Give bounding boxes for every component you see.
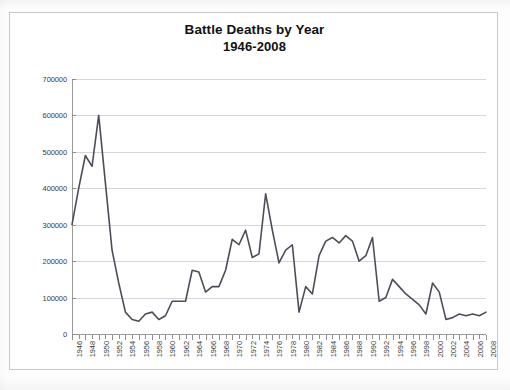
y-axis-tick <box>72 298 76 299</box>
x-axis-tick-label: 1950 <box>102 341 111 357</box>
x-axis-tick <box>419 335 420 340</box>
x-axis-tick <box>179 335 180 340</box>
x-axis-tick-label: 1960 <box>168 341 177 357</box>
x-axis-tick-label: 1948 <box>88 341 97 357</box>
x-axis-tick <box>352 335 353 340</box>
y-axis-tick-label: 200000 <box>11 257 67 266</box>
x-axis-tick <box>406 335 407 340</box>
y-axis-tick-label: 0 <box>11 330 67 339</box>
y-axis-tick-label: 700000 <box>11 75 67 84</box>
x-axis-tick <box>312 335 313 340</box>
x-axis-tick <box>413 335 414 339</box>
x-axis-tick <box>139 335 140 340</box>
x-axis-tick-label: 1954 <box>128 341 137 357</box>
x-axis-tick <box>266 335 267 339</box>
x-axis-tick <box>125 335 126 340</box>
x-axis-tick <box>279 335 280 339</box>
x-axis-tick <box>72 335 73 340</box>
x-axis-tick-label: 1990 <box>369 341 378 357</box>
x-axis-tick-label: 2004 <box>462 341 471 357</box>
y-axis-tick-label: 400000 <box>11 184 67 193</box>
x-axis-tick <box>319 335 320 339</box>
x-axis-tick-label: 1998 <box>422 341 431 357</box>
x-axis-tick <box>393 335 394 340</box>
x-axis-tick-label: 2000 <box>436 341 445 357</box>
x-axis-tick <box>466 335 467 339</box>
x-axis-tick <box>199 335 200 339</box>
x-axis-tick <box>79 335 80 339</box>
x-axis-tick <box>372 335 373 339</box>
y-axis-tick <box>72 334 76 335</box>
x-axis-tick-label: 1974 <box>262 341 271 357</box>
y-axis-tick-label: 600000 <box>11 111 67 120</box>
x-axis-ticks <box>72 335 487 340</box>
x-axis-tick <box>426 335 427 339</box>
x-axis-tick-label: 1956 <box>142 341 151 357</box>
x-axis-tick <box>366 335 367 340</box>
x-axis-tick <box>172 335 173 339</box>
x-axis-tick <box>359 335 360 339</box>
x-axis-tick-label: 2008 <box>489 341 498 357</box>
x-axis-tick <box>299 335 300 340</box>
x-axis-tick <box>252 335 253 339</box>
x-axis-tick <box>453 335 454 339</box>
x-axis-tick-label: 1980 <box>302 341 311 357</box>
x-axis-tick <box>206 335 207 340</box>
x-axis-tick <box>165 335 166 340</box>
chart-title-line1: Battle Deaths by Year <box>10 21 499 38</box>
y-axis-labels: 0100000200000300000400000500000600000700… <box>10 79 67 335</box>
x-axis-tick-label: 1964 <box>195 341 204 357</box>
y-axis-tick <box>72 261 76 262</box>
x-axis-tick <box>92 335 93 339</box>
x-axis-labels: 1946194819501952195419561958196019621964… <box>72 341 487 375</box>
x-axis-tick <box>192 335 193 340</box>
x-axis-tick-label: 1996 <box>409 341 418 357</box>
y-axis-tick-label: 100000 <box>11 293 67 302</box>
x-axis-tick-label: 1988 <box>355 341 364 357</box>
x-axis-tick <box>479 335 480 339</box>
chart-title-line2: 1946-2008 <box>10 38 499 55</box>
x-axis-tick <box>306 335 307 339</box>
chart-title: Battle Deaths by Year 1946-2008 <box>10 21 499 55</box>
x-axis-tick <box>399 335 400 339</box>
scanned-page: Battle Deaths by Year 1946-2008 01000002… <box>0 0 510 390</box>
x-axis-tick <box>232 335 233 340</box>
x-axis-tick <box>473 335 474 340</box>
y-axis-tick-label: 500000 <box>11 147 67 156</box>
x-axis-tick <box>226 335 227 339</box>
x-axis-tick <box>332 335 333 339</box>
x-axis-tick <box>486 335 487 340</box>
x-axis-tick-label: 1972 <box>249 341 258 357</box>
x-axis-tick <box>152 335 153 340</box>
x-axis-tick <box>219 335 220 340</box>
x-axis-tick <box>326 335 327 340</box>
x-axis-tick-label: 1968 <box>222 341 231 357</box>
x-axis-tick <box>379 335 380 340</box>
x-axis-tick <box>459 335 460 340</box>
x-axis-tick <box>246 335 247 340</box>
x-axis-tick-label: 1994 <box>396 341 405 357</box>
battle-deaths-series <box>72 79 486 335</box>
chart-frame: Battle Deaths by Year 1946-2008 01000002… <box>9 12 498 370</box>
y-axis-tick <box>72 115 76 116</box>
x-axis-tick-label: 1978 <box>289 341 298 357</box>
x-axis-tick <box>286 335 287 340</box>
x-axis-tick <box>446 335 447 340</box>
x-axis-tick <box>212 335 213 339</box>
x-axis-tick-label: 1958 <box>155 341 164 357</box>
x-axis-tick <box>159 335 160 339</box>
x-axis-tick-label: 1984 <box>329 341 338 357</box>
x-axis-tick <box>259 335 260 340</box>
x-axis-tick <box>292 335 293 339</box>
x-axis-tick-label: 1976 <box>275 341 284 357</box>
y-axis-tick <box>72 152 76 153</box>
x-axis-tick <box>346 335 347 339</box>
y-axis-tick <box>72 79 76 80</box>
x-axis-tick <box>132 335 133 339</box>
x-axis-tick-label: 1982 <box>315 341 324 357</box>
x-axis-tick-label: 1970 <box>235 341 244 357</box>
x-axis-tick <box>112 335 113 340</box>
y-axis-tick-label: 300000 <box>11 220 67 229</box>
x-axis-tick-label: 2002 <box>449 341 458 357</box>
y-axis-tick <box>72 225 76 226</box>
